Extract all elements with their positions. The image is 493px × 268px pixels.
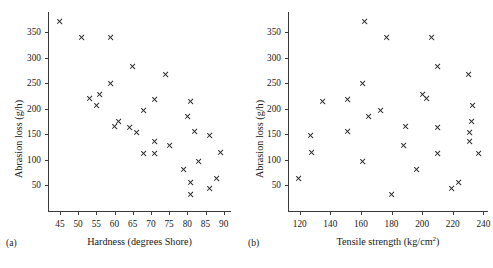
data-point: [86, 95, 93, 102]
y-axis-title-a: Abrasion loss (g/h): [13, 100, 24, 178]
y-tick-label-300: 300: [27, 53, 41, 63]
data-point: [151, 96, 158, 103]
data-point: [166, 142, 173, 149]
data-point: [129, 63, 136, 70]
data-point: [140, 150, 147, 157]
x-tick-120: [300, 211, 301, 215]
data-point: [115, 118, 122, 125]
data-point: [468, 118, 475, 125]
y-tick-350: [285, 32, 289, 33]
x-tick-label-90: 90: [219, 219, 228, 229]
x-tick-label-160: 160: [354, 219, 368, 229]
data-point: [388, 191, 395, 198]
data-point: [413, 166, 420, 173]
data-point: [361, 18, 368, 25]
data-point: [111, 123, 118, 130]
y-tick-label-250: 250: [267, 78, 281, 88]
data-point: [428, 34, 435, 41]
data-point: [206, 132, 213, 139]
x-tick-label-45: 45: [55, 219, 64, 229]
data-point: [187, 179, 194, 186]
x-tick-140: [330, 211, 331, 215]
data-point: [213, 175, 220, 182]
x-tick-85: [206, 211, 207, 215]
data-point: [434, 63, 441, 70]
data-point: [319, 98, 326, 105]
data-point: [151, 138, 158, 145]
x-tick-label-120: 120: [293, 219, 307, 229]
data-point: [365, 113, 372, 120]
data-point: [96, 91, 103, 98]
x-tick-160: [361, 211, 362, 215]
data-point: [93, 102, 100, 109]
x-tick-80: [187, 211, 188, 215]
data-point: [448, 185, 455, 192]
data-point: [295, 175, 302, 182]
data-point: [107, 80, 114, 87]
data-point: [359, 80, 366, 87]
x-tick-label-65: 65: [128, 219, 137, 229]
x-tick-label-50: 50: [73, 219, 82, 229]
panel-label-a: (a): [6, 237, 17, 248]
data-point: [78, 34, 85, 41]
y-tick-label-100: 100: [27, 155, 41, 165]
data-point: [56, 18, 63, 25]
data-point: [140, 107, 147, 114]
y-tick-250: [45, 83, 49, 84]
data-point: [126, 124, 133, 131]
y-tick-label-200: 200: [267, 104, 281, 114]
y-tick-100: [285, 160, 289, 161]
y-tick-label-50: 50: [32, 180, 41, 190]
panel-a: 4550556065707580859050100150200250300350…: [0, 0, 246, 268]
y-tick-150: [285, 134, 289, 135]
data-point: [107, 34, 114, 41]
y-tick-300: [45, 58, 49, 59]
y-tick-label-50: 50: [272, 180, 281, 190]
data-point: [195, 158, 202, 165]
data-point: [402, 123, 409, 130]
panel-b: 1201401601802002202405010015020025030035…: [246, 0, 493, 268]
x-tick-50: [78, 211, 79, 215]
y-tick-label-350: 350: [27, 27, 41, 37]
y-tick-250: [285, 83, 289, 84]
x-tick-70: [151, 211, 152, 215]
data-point: [217, 149, 224, 156]
data-point: [187, 98, 194, 105]
panel-label-b: (b): [248, 237, 259, 248]
x-axis-title-b: Tensile strength (kg/cm2): [288, 236, 488, 247]
x-tick-60: [115, 211, 116, 215]
y-tick-350: [45, 32, 49, 33]
data-point: [465, 71, 472, 78]
data-point: [423, 95, 430, 102]
y-axis-title-b: Abrasion loss (g/h): [254, 100, 265, 178]
y-tick-150: [45, 134, 49, 135]
data-point: [469, 102, 476, 109]
data-point: [466, 129, 473, 136]
x-tick-90: [224, 211, 225, 215]
data-point: [344, 96, 351, 103]
x-tick-45: [60, 211, 61, 215]
y-tick-50: [45, 185, 49, 186]
data-point: [475, 150, 482, 157]
plot-area-b: 1201401601802002202405010015020025030035…: [288, 12, 488, 212]
y-tick-300: [285, 58, 289, 59]
data-point: [162, 71, 169, 78]
data-point: [434, 124, 441, 131]
data-point: [466, 138, 473, 145]
data-point: [434, 150, 441, 157]
x-tick-label-240: 240: [476, 219, 490, 229]
x-tick-label-80: 80: [183, 219, 192, 229]
x-tick-label-75: 75: [164, 219, 173, 229]
data-point: [184, 113, 191, 120]
x-tick-label-55: 55: [92, 219, 101, 229]
x-tick-label-70: 70: [146, 219, 155, 229]
x-tick-220: [453, 211, 454, 215]
data-point: [383, 34, 390, 41]
data-point: [419, 91, 426, 98]
y-tick-label-100: 100: [267, 155, 281, 165]
y-tick-100: [45, 160, 49, 161]
y-tick-label-300: 300: [267, 53, 281, 63]
data-point: [151, 150, 158, 157]
x-tick-label-60: 60: [110, 219, 119, 229]
y-tick-label-200: 200: [27, 104, 41, 114]
